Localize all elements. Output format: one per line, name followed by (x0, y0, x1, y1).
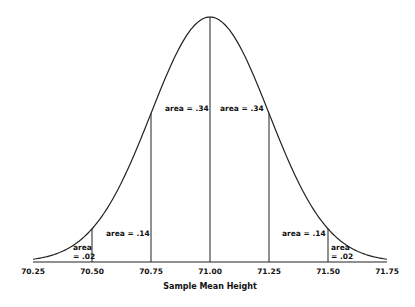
x-tick-label: 71.25 (257, 267, 281, 276)
x-axis-label: Sample Mean Height (163, 282, 257, 291)
region-label-right-mid: area = .14 (282, 229, 326, 238)
x-axis-ticks: 70.2570.5070.7571.0071.2571.5071.75 (21, 267, 399, 276)
region-label-left-center: area = .34 (165, 104, 209, 113)
region-label-right-center: area = .34 (220, 104, 264, 113)
x-tick-label: 71.75 (375, 267, 399, 276)
x-tick-label: 70.25 (21, 267, 45, 276)
region-label-right-tail-1: area (331, 243, 350, 252)
x-tick-label: 70.50 (80, 267, 104, 276)
x-tick-label: 71.50 (316, 267, 340, 276)
region-label-left-tail-2: = .02 (73, 252, 95, 261)
region-label-right-tail-2: = .02 (331, 252, 353, 261)
region-label-left-mid: area = .14 (106, 229, 150, 238)
region-label-left-tail-1: area (73, 243, 92, 252)
divider-lines (92, 17, 328, 262)
x-tick-label: 70.75 (139, 267, 163, 276)
x-tick-label: 71.00 (198, 267, 222, 276)
normal-distribution-chart: 70.2570.5070.7571.0071.2571.5071.75 area… (0, 0, 415, 307)
